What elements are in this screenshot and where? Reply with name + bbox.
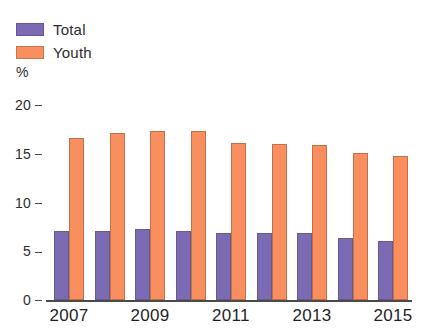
bar-total-2013 — [297, 233, 312, 300]
y-axis-unit-label: % — [16, 64, 29, 80]
x-label-2013: 2013 — [282, 306, 342, 326]
legend-label-youth: Youth — [53, 45, 92, 60]
y-tick-15: 15 — [0, 147, 42, 161]
y-tick-mark-icon — [35, 252, 42, 253]
bar-group — [378, 96, 408, 300]
bar-total-2015 — [378, 241, 393, 300]
legend-label-total: Total — [53, 22, 86, 37]
legend-swatch-icon-youth — [16, 46, 44, 59]
bar-youth-2012 — [272, 144, 287, 300]
y-tick-mark-icon — [35, 203, 42, 204]
bar-youth-2010 — [191, 131, 206, 300]
x-label-2015: 2015 — [363, 306, 422, 326]
bar-group — [338, 96, 368, 300]
bar-group — [257, 96, 287, 300]
y-tick-label: 5 — [23, 243, 31, 259]
bar-youth-2013 — [312, 145, 327, 300]
bar-youth-2007 — [69, 138, 84, 300]
bar-total-2012 — [257, 233, 272, 300]
bar-group — [216, 96, 246, 300]
y-tick-label: 20 — [15, 97, 31, 113]
x-label-2009: 2009 — [120, 306, 180, 326]
bar-youth-2014 — [353, 153, 368, 300]
bar-total-2008 — [95, 231, 110, 300]
bar-total-2014 — [338, 238, 353, 300]
bar-youth-2011 — [231, 143, 246, 300]
y-tick-mark-icon — [35, 300, 42, 301]
x-axis-line — [46, 300, 412, 302]
y-tick-mark-icon — [35, 154, 42, 155]
bar-total-2009 — [135, 229, 150, 300]
legend-swatch-icon-total — [16, 23, 44, 36]
bar-group — [54, 96, 84, 300]
bar-chart: Total Youth % 20151050 20072009201120132… — [0, 0, 422, 336]
y-tick-10: 10 — [0, 196, 42, 210]
bar-total-2007 — [54, 231, 69, 300]
x-label-2011: 2011 — [201, 306, 261, 326]
x-label-2007: 2007 — [39, 306, 99, 326]
y-tick-0: 0 — [0, 293, 42, 307]
bar-group — [176, 96, 206, 300]
bar-group — [297, 96, 327, 300]
bar-youth-2009 — [150, 131, 165, 300]
bar-total-2010 — [176, 231, 191, 300]
y-tick-label: 0 — [23, 292, 31, 308]
y-tick-label: 15 — [15, 146, 31, 162]
y-tick-mark-icon — [35, 105, 42, 106]
plot-area — [48, 96, 412, 300]
y-tick-label: 10 — [15, 195, 31, 211]
y-tick-5: 5 — [0, 244, 42, 258]
bar-youth-2015 — [393, 156, 408, 300]
legend-item-total: Total — [16, 20, 92, 39]
y-tick-20: 20 — [0, 98, 42, 112]
x-axis-labels: 20072009201120132015 — [48, 306, 412, 332]
bar-youth-2008 — [110, 133, 125, 300]
legend-item-youth: Youth — [16, 43, 92, 62]
bar-group — [135, 96, 165, 300]
bar-total-2011 — [216, 233, 231, 300]
bar-group — [95, 96, 125, 300]
chart-legend: Total Youth — [16, 20, 92, 66]
